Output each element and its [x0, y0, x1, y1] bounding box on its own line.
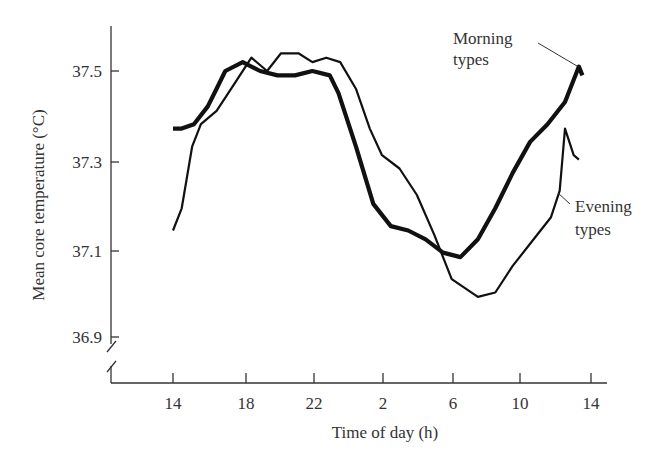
x-tick-label: 18	[238, 394, 255, 413]
x-tick-label: 14	[165, 394, 183, 413]
annotation-morning: Morning types	[453, 29, 577, 69]
x-tick-label: 6	[449, 394, 458, 413]
evening-types-line	[173, 53, 579, 297]
x-tick-label: 22	[306, 394, 323, 413]
series-layer	[173, 53, 582, 297]
annotation-morning-line2: types	[453, 50, 489, 69]
x-axis-title: Time of day (h)	[332, 423, 439, 442]
x-axis: 14 18 22 2 6 10 14 Time of day (h)	[111, 373, 607, 442]
y-tick-label: 37.1	[72, 242, 102, 261]
y-tick-label: 37.5	[72, 62, 102, 81]
temperature-chart: 37.5 37.3 37.1 36.9 Mean core temperatur…	[0, 0, 667, 467]
y-tick-label: 36.9	[72, 328, 102, 347]
y-axis-title: Mean core temperature (°C)	[29, 109, 48, 300]
morning-types-line	[173, 62, 582, 257]
annotation-evening-line1: Evening	[575, 197, 632, 216]
annotation-evening-line2: types	[575, 220, 611, 239]
x-tick-label: 14	[583, 394, 601, 413]
annotation-morning-line1: Morning	[453, 29, 513, 48]
x-tick-label: 10	[512, 394, 529, 413]
y-axis: 37.5 37.3 37.1 36.9 Mean core temperatur…	[29, 26, 119, 383]
y-tick-label: 37.3	[72, 153, 102, 172]
annotation-evening-leader	[558, 193, 570, 204]
annotation-morning-leader	[538, 43, 577, 66]
x-tick-label: 2	[379, 394, 388, 413]
annotation-evening: Evening types	[558, 193, 632, 239]
